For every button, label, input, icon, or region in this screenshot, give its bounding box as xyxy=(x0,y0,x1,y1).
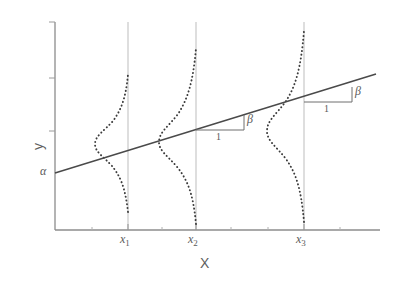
x-tick-label-x2: x2 xyxy=(188,232,198,248)
gridlines xyxy=(128,22,304,230)
x-axis xyxy=(55,224,380,230)
slope-triangle-1-rise-label: β xyxy=(247,112,253,127)
x-tick-label-x1-sub: 1 xyxy=(125,238,130,248)
x-tick-label-x2-sub: 2 xyxy=(193,238,198,248)
y-axis xyxy=(49,22,55,230)
slope-triangle-1-run-label: 1 xyxy=(216,131,221,142)
x-tick-label-x1: x1 xyxy=(120,232,130,248)
regression-distribution-figure: y X α x1 x2 x3 1 β 1 β xyxy=(0,0,397,286)
intercept-label-alpha: α xyxy=(40,164,46,179)
plot-canvas xyxy=(0,0,397,286)
y-axis-title: y xyxy=(30,143,46,150)
slope-triangle-2-rise-label: β xyxy=(355,84,361,99)
x-axis-title: X xyxy=(200,255,209,271)
x-tick-label-x3: x3 xyxy=(296,232,306,248)
regression-line xyxy=(55,74,376,173)
density-curve-x1 xyxy=(95,74,128,212)
density-curves xyxy=(95,30,304,224)
x-tick-label-x3-sub: 3 xyxy=(301,238,306,248)
density-curve-x3 xyxy=(267,30,304,222)
slope-triangle-2-run-label: 1 xyxy=(324,103,329,114)
